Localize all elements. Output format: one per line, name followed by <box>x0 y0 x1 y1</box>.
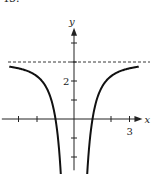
x-axis-label: x <box>144 114 150 125</box>
y-axis-label: y <box>68 16 75 27</box>
x-tick-label: 3 <box>127 126 133 137</box>
y-axis-arrow <box>71 28 77 36</box>
curve-right-branch <box>86 67 139 174</box>
axes <box>2 28 150 171</box>
y-tick-label: 2 <box>63 76 69 87</box>
curve-left-branch <box>9 67 62 174</box>
x-axis-arrow <box>134 116 142 122</box>
chart: xy32 <box>0 0 160 174</box>
